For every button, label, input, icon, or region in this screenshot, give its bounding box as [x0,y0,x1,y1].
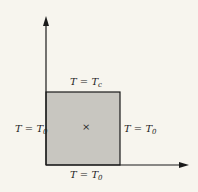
label-left: T = T0 [15,123,48,136]
label-bottom: T = T0 [70,169,103,182]
label-right: T = T0 [124,123,157,136]
x-axis-arrow-icon [179,162,189,168]
label-top: T = Tc [70,76,102,89]
y-axis-arrow-icon [43,16,49,26]
diagram-canvas: × T = Tc T = T0 T = T0 T = T0 [0,0,198,192]
center-marker: × [82,121,90,132]
